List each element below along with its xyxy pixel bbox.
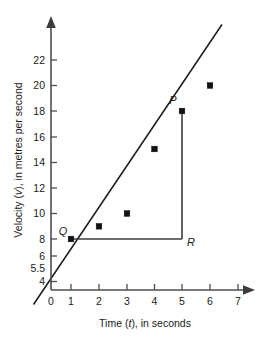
data-point-5 xyxy=(179,108,185,114)
x-tick-label-0: 0 xyxy=(48,295,54,307)
x-axis-title-post: ), in seconds xyxy=(131,317,191,329)
x-tick-label-6: 6 xyxy=(207,295,213,307)
y-tick-label-12: 12 xyxy=(33,182,45,194)
y-tick-label-22: 22 xyxy=(33,54,45,66)
data-point-2 xyxy=(96,224,102,230)
y-axis-ticks xyxy=(51,60,57,282)
velocity-time-chart: 22 20 18 16 14 12 10 8 6 5.5 4 0 1 2 xyxy=(0,0,263,337)
y-tick-label-20: 20 xyxy=(33,79,45,91)
y-axis-title: Velocity (v), in metres per second xyxy=(12,82,24,237)
data-line-group xyxy=(34,25,223,305)
chart-canvas: 22 20 18 16 14 12 10 8 6 5.5 4 0 1 2 xyxy=(0,0,263,337)
velocity-trend-line xyxy=(34,25,223,305)
y-tick-label-16: 16 xyxy=(33,131,45,143)
x-tick-label-4: 4 xyxy=(152,295,158,307)
y-tick-label-10: 10 xyxy=(33,207,45,219)
x-axis-title: Time (t), in seconds xyxy=(99,317,191,329)
point-label-R: R xyxy=(187,236,195,248)
y-tick-label-14: 14 xyxy=(33,156,45,168)
x-axis-arrow-icon xyxy=(243,285,255,295)
x-axis-title-pre: Time ( xyxy=(99,317,129,329)
point-label-Q: Q xyxy=(59,225,68,237)
y-tick-label-18: 18 xyxy=(33,105,45,117)
x-tick-label-2: 2 xyxy=(96,295,102,307)
y-tick-label-8: 8 xyxy=(39,233,45,245)
y-tick-label-4: 4 xyxy=(39,275,45,287)
axis-titles: Time (t), in seconds Velocity (v), in me… xyxy=(12,82,191,329)
data-point-6 xyxy=(207,83,213,89)
data-point-3 xyxy=(124,211,130,217)
x-tick-label-1: 1 xyxy=(68,295,74,307)
y-axis-arrow-icon xyxy=(46,16,56,28)
x-tick-label-7: 7 xyxy=(235,295,241,307)
x-axis-ticks xyxy=(71,284,238,290)
data-point-1 xyxy=(68,236,74,242)
axes-group xyxy=(46,16,255,295)
y-axis-title-pre: Velocity ( xyxy=(12,195,24,238)
y-intercept-label-5-5: 5.5 xyxy=(30,262,45,274)
x-tick-label-3: 3 xyxy=(124,295,130,307)
point-annotations: P Q R xyxy=(59,94,195,248)
y-axis-title-post: ), in metres per second xyxy=(12,82,24,190)
data-point-markers xyxy=(68,83,213,242)
y-tick-label-6: 6 xyxy=(39,250,45,262)
point-label-P: P xyxy=(169,94,177,106)
gradient-triangle xyxy=(71,111,182,239)
x-tick-label-5: 5 xyxy=(179,295,185,307)
data-point-4 xyxy=(152,146,158,152)
x-axis-tick-labels: 0 1 2 3 4 5 6 7 xyxy=(48,295,241,307)
y-axis-tick-labels: 22 20 18 16 14 12 10 8 6 5.5 4 xyxy=(30,54,45,288)
